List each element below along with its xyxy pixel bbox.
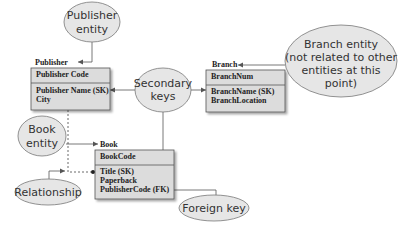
er-diagram: Publisher Publisher Code Publisher Name …: [0, 0, 401, 227]
entity-branch-name: Branch: [212, 60, 238, 69]
branch-attribute: BranchLocation: [211, 96, 267, 105]
publisher-attribute: Publisher Name (SK): [36, 86, 109, 95]
svg-text:Secondary: Secondary: [134, 77, 193, 90]
book-attribute: Title (SK): [100, 167, 134, 176]
callout-publisher-entity: Publisher entity: [64, 2, 120, 42]
svg-text:Branch entity: Branch entity: [304, 38, 379, 51]
callout-secondary-keys: Secondary keys: [134, 68, 193, 112]
publisher-attribute: City: [36, 95, 51, 104]
svg-text:keys: keys: [151, 90, 176, 103]
relationship-callout-connector: [49, 171, 65, 179]
svg-text:point): point): [325, 77, 357, 90]
book-primary-key: BookCode: [100, 152, 136, 161]
callout-relationship: Relationship: [14, 179, 82, 205]
entity-publisher-name: Publisher: [35, 58, 68, 67]
svg-text:Foreign key: Foreign key: [182, 202, 246, 215]
entity-book-name: Book: [100, 140, 118, 149]
publisher-callout-connector: [78, 41, 92, 62]
branch-attribute: BranchName (SK): [211, 87, 275, 96]
entity-publisher: Publisher Publisher Code Publisher Name …: [31, 58, 110, 110]
svg-text:Relationship: Relationship: [14, 186, 82, 199]
svg-text:(not related to other: (not related to other: [285, 51, 398, 64]
book-attribute: Paperback: [100, 176, 137, 185]
publisher-primary-key: Publisher Code: [36, 70, 89, 79]
relationship-endpoint-dot: [91, 170, 95, 174]
relationship-line: [68, 110, 93, 172]
svg-text:entity: entity: [76, 23, 108, 36]
branch-primary-key: BranchNum: [211, 72, 254, 81]
svg-text:entities at this: entities at this: [301, 64, 380, 77]
callout-foreign-key: Foreign key: [179, 195, 249, 221]
entity-book: Book BookCode Title (SK) Paperback Publi…: [95, 140, 174, 199]
svg-text:Publisher: Publisher: [67, 9, 118, 22]
book-attribute: PublisherCode (FK): [100, 185, 169, 194]
entity-branch: Branch BranchNum BranchName (SK) BranchL…: [206, 60, 285, 112]
svg-text:entity: entity: [26, 137, 58, 150]
svg-text:Book: Book: [28, 123, 56, 136]
callout-branch-entity: Branch entity (not related to other enti…: [285, 25, 398, 97]
callout-book-entity: Book entity: [18, 116, 66, 156]
